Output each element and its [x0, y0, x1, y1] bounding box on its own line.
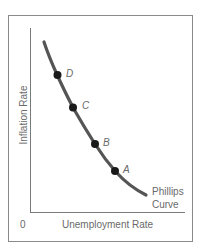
point-c-label: C: [82, 101, 89, 111]
point-b-marker: [91, 140, 99, 148]
curve-name-label: Phillips Curve: [152, 185, 184, 211]
point-d-label: D: [66, 69, 73, 79]
point-a-label: A: [123, 165, 130, 175]
point-d-marker: [54, 71, 62, 79]
point-c-marker: [69, 104, 77, 112]
x-axis-label: Unemployment Rate: [62, 220, 153, 230]
phillips-curve-plot: [0, 0, 204, 251]
y-axis-label: Inflation Rate: [18, 86, 29, 145]
origin-label: 0: [20, 220, 26, 230]
phillips-curve-line: [44, 42, 146, 195]
curve-name-line-2: Curve: [152, 198, 184, 211]
point-a-marker: [111, 167, 119, 175]
point-b-label: B: [103, 138, 110, 148]
curve-name-line-1: Phillips: [152, 185, 184, 198]
